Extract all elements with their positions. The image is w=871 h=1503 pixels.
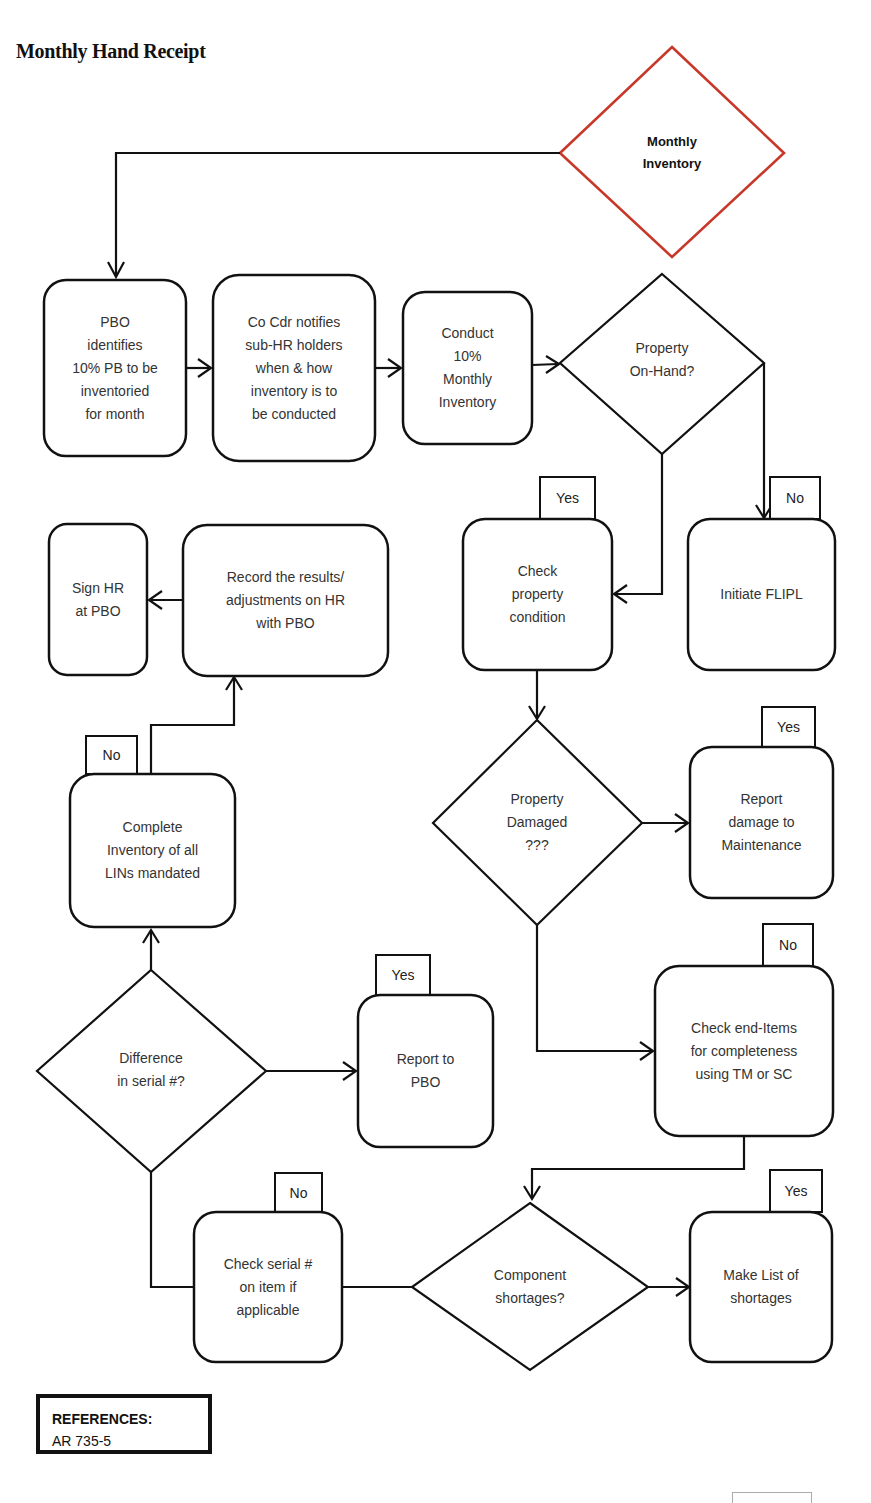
label-report-pbo: Report to PBO [360, 997, 491, 1145]
label-property-damaged: Property Damaged ??? [477, 785, 597, 860]
label-sign-hr: Sign HR at PBO [51, 526, 145, 673]
page-number-box [732, 1492, 812, 1503]
label-property-on-hand: Property On-Hand? [600, 330, 724, 390]
references-box: REFERENCES: AR 735-5 [36, 1394, 212, 1454]
references-heading: REFERENCES: [52, 1408, 196, 1430]
tag-no: No [275, 1173, 322, 1212]
label-check-serial: Check serial # on item if applicable [196, 1214, 340, 1360]
reference-item: AR 735-5 [52, 1430, 196, 1452]
label-make-list: Make List of shortages [692, 1214, 830, 1360]
label-conduct-inventory: Conduct 10% Monthly Inventory [405, 294, 530, 442]
label-complete-inventory: Complete Inventory of all LINs mandated [72, 776, 233, 925]
label-start: Monthly Inventory [600, 120, 744, 186]
connector-start-to-pbo [116, 153, 560, 276]
tag-yes: Yes [770, 1170, 822, 1212]
label-component-shortages: Component shortages? [470, 1257, 590, 1317]
label-record-results: Record the results/ adjustments on HR wi… [185, 527, 386, 674]
label-initiate-flipl: Initiate FLIPL [690, 521, 833, 668]
label-report-damage: Report damage to Maintenance [692, 749, 831, 896]
label-pbo-identifies: PBO identifies 10% PB to be inventoried … [46, 282, 184, 454]
tag-yes: Yes [762, 707, 815, 747]
label-check-end-items: Check end-Items for completeness using T… [657, 968, 831, 1134]
tag-no: No [763, 924, 813, 966]
tag-yes: Yes [540, 477, 595, 519]
tag-no: No [770, 477, 820, 519]
label-check-condition: Check property condition [465, 521, 610, 668]
label-difference-serial: Difference in serial #? [86, 1040, 216, 1100]
label-co-cdr-notifies: Co Cdr notifies sub-HR holders when & ho… [215, 277, 373, 459]
tag-yes: Yes [376, 955, 430, 995]
tag-no: No [86, 736, 137, 774]
